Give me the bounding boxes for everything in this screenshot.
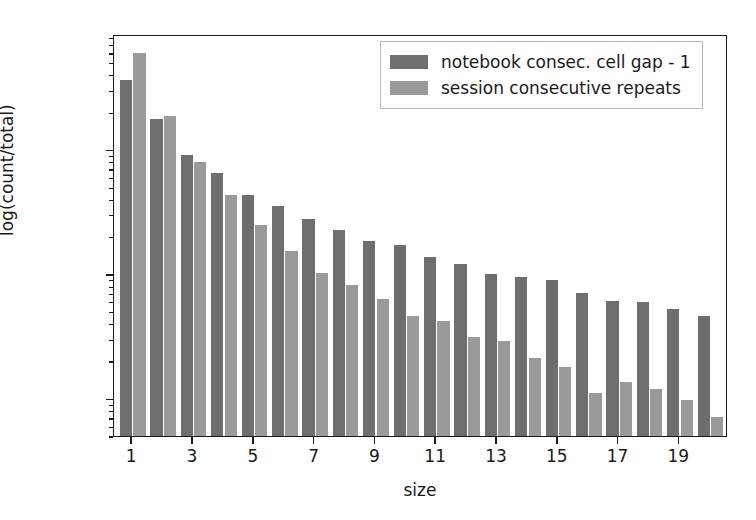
chart-figure: 10⁻¹10⁻²10⁻³ log(count/total) 1357911131… (0, 0, 756, 520)
y-tick-minor (109, 280, 113, 281)
x-tick-label: 3 (187, 446, 198, 466)
legend-item: session consecutive repeats (390, 75, 691, 101)
x-tick-label: 1 (126, 446, 137, 466)
y-tick-minor (109, 324, 113, 325)
y-tick-minor (109, 162, 113, 163)
x-tick-label: 11 (424, 446, 446, 466)
y-tick-minor (109, 38, 113, 39)
x-tick-label: 19 (668, 446, 690, 466)
y-tick-minor (109, 340, 113, 341)
y-tick-minor (109, 427, 113, 428)
y-tick (106, 399, 113, 401)
y-tick-minor (109, 91, 113, 92)
y-tick (106, 274, 113, 276)
x-tick-label: 9 (369, 446, 380, 466)
legend-item: notebook consec. cell gap - 1 (390, 49, 691, 75)
y-tick-minor (109, 405, 113, 406)
y-tick-minor (109, 361, 113, 362)
legend-swatch-session (390, 81, 428, 95)
x-tick-label: 7 (308, 446, 319, 466)
x-tick (374, 437, 376, 444)
x-tick (495, 437, 497, 444)
x-tick (313, 437, 315, 444)
x-tick-label: 5 (247, 446, 258, 466)
x-tick (191, 437, 193, 444)
y-axis-label: log(count/total) (0, 104, 17, 236)
y-tick-minor (109, 287, 113, 288)
y-tick-minor (109, 200, 113, 201)
x-axis-label: size (113, 480, 727, 500)
legend: notebook consec. cell gap - 1 session co… (380, 41, 703, 109)
x-tick-label: 13 (485, 446, 507, 466)
legend-label-session: session consecutive repeats (441, 78, 681, 98)
y-tick-minor (109, 75, 113, 76)
y-tick-minor (109, 178, 113, 179)
y-tick-minor (109, 312, 113, 313)
x-tick-label: 15 (546, 446, 568, 466)
y-tick-minor (109, 237, 113, 238)
x-tick (617, 437, 619, 444)
y-tick-minor (109, 302, 113, 303)
x-axis: 135791113151719 (113, 437, 727, 477)
x-tick (130, 437, 132, 444)
y-tick-minor (109, 215, 113, 216)
legend-swatch-notebook (390, 55, 428, 69)
y-tick-minor (109, 418, 113, 419)
y-tick-minor (109, 156, 113, 157)
x-tick-label: 17 (607, 446, 629, 466)
legend-label-notebook: notebook consec. cell gap - 1 (441, 52, 691, 72)
x-tick (252, 437, 254, 444)
x-tick (678, 437, 680, 444)
y-tick (106, 150, 113, 152)
y-tick-minor (109, 113, 113, 114)
y-tick-minor (109, 411, 113, 412)
y-tick-minor (109, 45, 113, 46)
y-tick-minor (109, 169, 113, 170)
y-tick-minor (109, 53, 113, 54)
x-tick (556, 437, 558, 444)
y-tick-minor (109, 294, 113, 295)
y-tick-minor (109, 188, 113, 189)
x-tick (434, 437, 436, 444)
y-tick-minor (109, 63, 113, 64)
